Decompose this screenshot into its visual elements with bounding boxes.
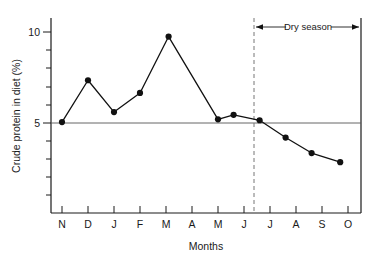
data-point (215, 116, 221, 122)
x-tick-label-2: J (111, 218, 116, 230)
dry-season-annotation: Dry season (256, 21, 359, 32)
y-tick-label-5: 5 (34, 117, 40, 129)
data-point (85, 77, 91, 83)
x-tick-label-0: N (58, 218, 66, 230)
x-tick-label-6: M (214, 218, 223, 230)
data-point (309, 150, 315, 156)
dry-season-arrow-left-head (256, 24, 263, 30)
dry-season-arrow-right-head (352, 24, 359, 30)
data-point (283, 134, 289, 140)
data-point (111, 109, 117, 115)
data-point (137, 90, 143, 96)
x-tick-label-10: S (318, 218, 325, 230)
y-axis-title: Crude protein in diet (%) (10, 59, 22, 173)
x-tick-label-1: D (84, 218, 92, 230)
series-markers (59, 33, 343, 165)
x-tick-label-3: F (137, 218, 143, 230)
data-point (166, 33, 172, 39)
series-group (59, 33, 343, 165)
x-tick-label-5: A (188, 218, 195, 230)
data-point (59, 119, 65, 125)
dry-season-label: Dry season (284, 21, 332, 32)
x-tick-label-8: J (267, 218, 272, 230)
x-tick-label-4: M (162, 218, 171, 230)
data-point (231, 112, 237, 118)
x-tick-label-11: O (344, 218, 352, 230)
y-tick-label-10: 10 (28, 26, 40, 38)
data-point (337, 159, 343, 165)
data-point (257, 117, 263, 123)
x-axis-title: Months (189, 240, 223, 252)
chart-figure: 10 5 Crude protein in diet (%) N D J F M… (0, 0, 377, 257)
series-line-crude-protein (62, 37, 340, 163)
x-tick-label-9: A (292, 218, 299, 230)
x-tick-label-7: J (241, 218, 246, 230)
line-chart-svg: 10 5 Crude protein in diet (%) N D J F M… (0, 0, 377, 257)
